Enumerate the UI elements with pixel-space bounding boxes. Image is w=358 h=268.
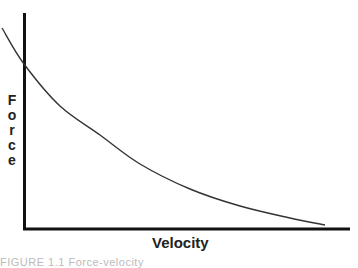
force-velocity-curve	[2, 28, 325, 225]
y-axis-label-letter: o	[8, 108, 17, 123]
y-axis-label-letter: F	[8, 93, 17, 108]
x-axis-label: Velocity	[152, 234, 209, 251]
y-axis-label-letter: r	[9, 123, 14, 138]
y-axis-label-letter: c	[8, 138, 16, 153]
y-axis-label-letter: e	[8, 153, 16, 168]
y-axis-label: F o r c e	[4, 93, 20, 168]
figure-caption: FIGURE 1.1 Force-velocity	[0, 256, 144, 268]
